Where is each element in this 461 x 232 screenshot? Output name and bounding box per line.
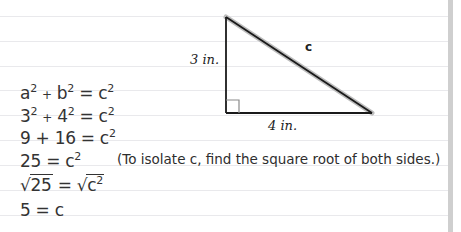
exponent: 2 xyxy=(108,105,115,118)
equation-square-root: √25 = √c2 xyxy=(20,174,104,195)
exponent: 2 xyxy=(74,150,81,163)
right-angle-marker xyxy=(226,100,239,113)
hypotenuse-label: c xyxy=(305,40,312,54)
equation-substitute: 32 + 42 = c2 xyxy=(20,106,114,128)
exponent: 2 xyxy=(107,82,114,95)
equation-text: 5 = c xyxy=(20,200,64,220)
exponent: 2 xyxy=(68,105,75,118)
exponent: 2 xyxy=(96,174,103,187)
term-a: a xyxy=(20,83,30,103)
radicand-left: 25 xyxy=(30,174,53,195)
vertical-side-label: 3 in. xyxy=(190,52,219,67)
equals-c: = c xyxy=(79,83,107,103)
equation-text: 9 + 16 = c xyxy=(20,128,109,148)
term-c: c xyxy=(87,175,96,195)
exponent: 2 xyxy=(31,105,38,118)
plus-sign: + xyxy=(42,111,52,125)
exponent: 2 xyxy=(109,127,116,140)
equation-sum: 9 + 16 = c2 xyxy=(20,128,116,148)
term-4: 4 xyxy=(57,106,68,126)
equals-sign: = xyxy=(58,175,72,195)
equation-result-squared: 25 = c2 xyxy=(20,151,81,171)
equation-solution: 5 = c xyxy=(20,200,64,220)
term-b: b xyxy=(57,83,68,103)
equation-text: 25 = c xyxy=(20,151,74,171)
explanation-note: (To isolate c, find the square root of b… xyxy=(117,151,440,167)
equals-c: = c xyxy=(80,106,108,126)
exponent: 2 xyxy=(67,82,74,95)
exponent: 2 xyxy=(30,82,37,95)
plus-sign: + xyxy=(42,88,52,102)
radicand-right: c2 xyxy=(86,174,104,195)
hypotenuse xyxy=(226,17,372,113)
equation-pythagorean: a2 + b2 = c2 xyxy=(20,83,114,105)
horizontal-side-label: 4 in. xyxy=(268,118,297,133)
term-3: 3 xyxy=(20,106,31,126)
